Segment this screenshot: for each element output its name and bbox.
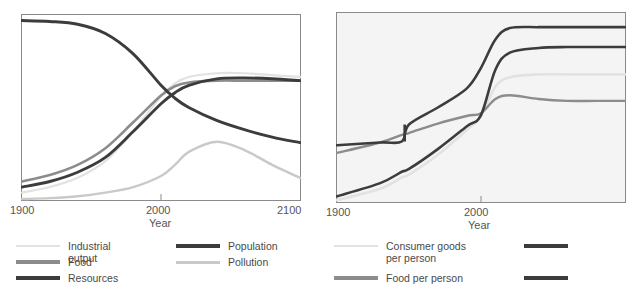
right-plot-area bbox=[336, 12, 626, 203]
legend-swatch-pollution bbox=[176, 261, 220, 264]
left-chart-panel: 1900 2000 2100 Year Industrial output Fo… bbox=[0, 0, 318, 293]
right-xtick-2000: 2000 bbox=[464, 206, 488, 218]
legend-item-unlabeled-1[interactable] bbox=[524, 240, 624, 248]
left-xtick-2100: 2100 bbox=[277, 204, 301, 216]
legend-swatch-consumer-goods-per-person bbox=[334, 245, 378, 247]
legend-item-resources[interactable]: Resources bbox=[16, 272, 118, 284]
legend-label-food-per-person: Food per person bbox=[386, 272, 463, 284]
legend-label-food: Food bbox=[68, 256, 92, 268]
legend-item-pollution[interactable]: Pollution bbox=[176, 256, 268, 268]
left-plot-frame bbox=[22, 15, 301, 201]
right-xaxis-title: Year bbox=[468, 219, 490, 231]
legend-swatch-population bbox=[176, 244, 220, 247]
legend-swatch-food-per-person bbox=[334, 276, 378, 279]
legend-label-population: Population bbox=[228, 240, 278, 252]
legend-swatch-unlabeled-2 bbox=[524, 276, 568, 279]
legend-swatch-food bbox=[16, 260, 60, 263]
legend-label-consumer-goods-per-person: Consumer goods per person bbox=[386, 240, 466, 264]
legend-swatch-unlabeled-1 bbox=[524, 244, 568, 247]
right-plot-frame bbox=[337, 13, 626, 203]
legend-item-food-per-person[interactable]: Food per person bbox=[334, 272, 484, 284]
right-chart-panel: 1900 2000 Year Consumer goods per person… bbox=[318, 0, 636, 293]
legend-label-pollution: Pollution bbox=[228, 256, 268, 268]
legend-item-population[interactable]: Population bbox=[176, 240, 278, 252]
left-plot-svg bbox=[21, 14, 301, 201]
left-xtick-2000: 2000 bbox=[146, 204, 170, 216]
legend-swatch-industrial-output bbox=[16, 245, 60, 247]
legend-label-resources: Resources bbox=[68, 272, 118, 284]
legend-item-consumer-goods-per-person[interactable]: Consumer goods per person bbox=[334, 240, 484, 264]
right-plot-svg bbox=[336, 12, 626, 203]
left-xtick-1900: 1900 bbox=[10, 204, 34, 216]
right-xtick-1900: 1900 bbox=[326, 206, 350, 218]
left-plot-area bbox=[21, 14, 301, 201]
figure-root: 1900 2000 2100 Year Industrial output Fo… bbox=[0, 0, 636, 293]
legend-item-food[interactable]: Food bbox=[16, 256, 92, 268]
legend-swatch-resources bbox=[16, 276, 60, 279]
left-xaxis-title: Year bbox=[149, 217, 171, 229]
legend-item-unlabeled-2[interactable] bbox=[524, 272, 624, 280]
